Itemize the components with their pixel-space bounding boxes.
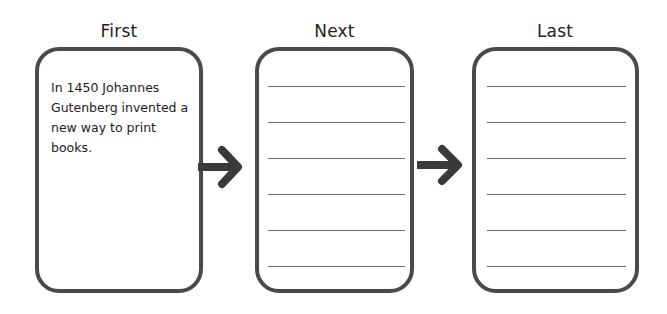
box-next	[255, 47, 414, 293]
writing-line[interactable]	[487, 194, 626, 195]
writing-line[interactable]	[268, 230, 405, 231]
arrow-right-icon	[195, 145, 245, 190]
writing-line[interactable]	[268, 194, 405, 195]
writing-line[interactable]	[487, 158, 626, 159]
writing-line[interactable]	[487, 266, 626, 267]
title-last: Last	[472, 21, 638, 41]
title-next: Next	[255, 21, 414, 41]
writing-line[interactable]	[268, 266, 405, 267]
box-first: In 1450 Johannes Gutenberg invented a ne…	[35, 47, 203, 293]
box-last	[472, 47, 639, 293]
arrow-right-icon	[414, 143, 464, 188]
title-first: First	[35, 21, 203, 41]
writing-line[interactable]	[487, 230, 626, 231]
writing-line[interactable]	[268, 122, 405, 123]
writing-line[interactable]	[268, 158, 405, 159]
writing-line[interactable]	[268, 86, 405, 87]
box-first-text[interactable]: In 1450 Johannes Gutenberg invented a ne…	[51, 78, 191, 158]
writing-line[interactable]	[487, 122, 626, 123]
writing-line[interactable]	[487, 86, 626, 87]
